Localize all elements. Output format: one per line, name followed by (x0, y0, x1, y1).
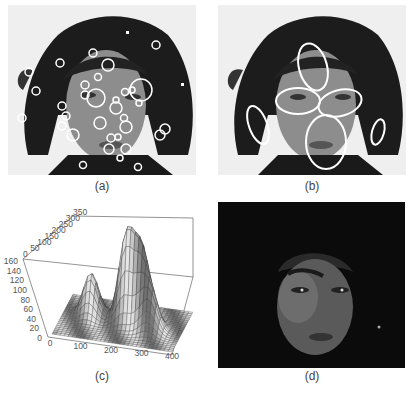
surface-cell (168, 350, 173, 352)
z-tick-label: 160 (4, 256, 18, 266)
x-tick-label: 100 (73, 341, 87, 351)
z-tick-label: 100 (13, 285, 27, 295)
portrait-a (8, 5, 196, 175)
caption-d: (d) (282, 369, 342, 383)
caption-a: (a) (72, 179, 132, 193)
z-tick-label: 120 (10, 275, 24, 285)
caption-b: (b) (282, 179, 342, 193)
surface-chart: 0204060801001201401600501001502002503003… (0, 200, 205, 365)
panel-b (218, 5, 406, 175)
x-tick-label: 200 (104, 345, 118, 355)
portrait-b (218, 5, 406, 175)
y-tick-label: 0 (23, 249, 28, 259)
panel-d (218, 202, 405, 368)
z-tick-label: 40 (27, 314, 37, 324)
box-top-back (73, 216, 193, 218)
panel-a (8, 5, 196, 175)
x-tick-label: 300 (134, 348, 148, 358)
panel-c: 0204060801001201401600501001502002503003… (0, 200, 205, 365)
caption-c: (c) (72, 369, 132, 383)
y-tick-label: 350 (73, 207, 87, 217)
portrait-d (218, 202, 405, 368)
x-tick-label: 400 (165, 351, 179, 361)
z-tick-label: 0 (37, 333, 42, 343)
box-top-front (23, 259, 193, 277)
z-tick-label: 60 (24, 304, 34, 314)
z-tick-label: 140 (7, 266, 21, 276)
x-tick-label: 0 (48, 338, 53, 348)
z-tick-label: 20 (30, 323, 40, 333)
surface-mesh (52, 227, 193, 352)
z-tick-label: 80 (21, 295, 31, 305)
